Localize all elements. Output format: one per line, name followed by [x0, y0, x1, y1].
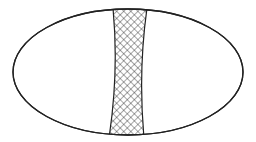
hatched-band [109, 8, 147, 138]
diagram-canvas [0, 0, 256, 142]
